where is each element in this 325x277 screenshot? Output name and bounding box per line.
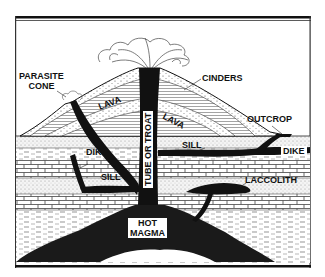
label-hot-magma: HOT MAGMA [128, 218, 167, 238]
label-sill-upper: SILL [182, 140, 202, 150]
label-parasite-line2: CONE [19, 81, 64, 91]
label-magma-line1: HOT [130, 218, 165, 228]
label-magma-line2: MAGMA [130, 228, 165, 238]
label-laccolith: LACCOLITH [245, 175, 297, 185]
label-dike-left: DIKE [86, 147, 108, 157]
label-parasite-cone: PARASITE CONE [19, 71, 64, 91]
frame-bottom-border [15, 265, 311, 268]
label-dike-right: DIKE [281, 146, 307, 156]
label-outcrop: OUTCROP [247, 114, 292, 124]
label-tube-or-troat: TUBE OR TROAT [143, 111, 153, 188]
frame-top-border [15, 16, 311, 19]
label-parasite-line1: PARASITE [19, 71, 64, 81]
eruption-plume [98, 38, 189, 68]
sill-lower [80, 186, 140, 193]
label-sill-lower: SILL [101, 172, 121, 182]
label-cinders: CINDERS [202, 73, 243, 83]
